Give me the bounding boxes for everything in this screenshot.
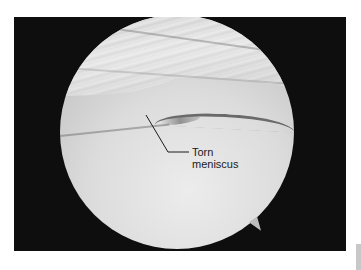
meniscus-tear-cleft	[155, 110, 294, 132]
arthroscope-field-of-view	[60, 17, 294, 249]
page-edge-tab	[356, 244, 361, 270]
annotation-label-line2: meniscus	[192, 158, 238, 170]
scope-orientation-notch	[249, 216, 265, 233]
annotation-label: Torn meniscus	[192, 146, 238, 170]
meniscus-edge	[60, 124, 170, 137]
image-frame	[14, 17, 346, 251]
annotation-label-line1: Torn	[192, 146, 238, 158]
